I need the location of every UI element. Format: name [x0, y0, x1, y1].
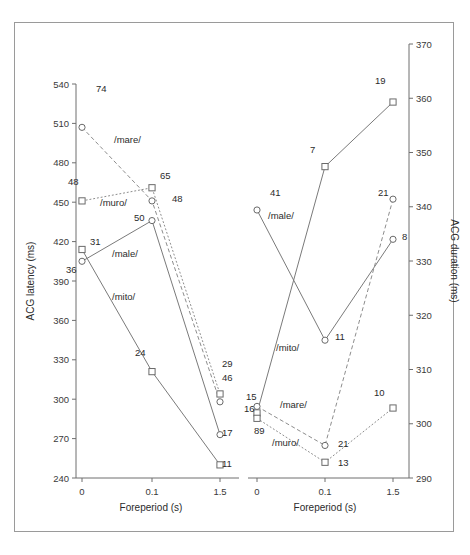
left-marker-square — [149, 185, 155, 191]
left-marker-circle — [79, 124, 85, 130]
right-series-label: /mare/ — [280, 399, 307, 410]
right-marker-square — [254, 415, 260, 421]
left-marker-circle — [79, 258, 85, 264]
left-point-label: 50 — [134, 212, 145, 223]
left-series-line-mare — [82, 127, 220, 401]
right-marker-circle — [254, 207, 260, 213]
right-x-tick-label: 0.1 — [318, 486, 331, 497]
left-point-label: 11 — [222, 458, 232, 469]
left-point-label: 48 — [68, 176, 79, 187]
right-y-tick-label: 330 — [416, 256, 432, 267]
left-marker-circle — [217, 399, 223, 405]
left-point-label: 65 — [160, 170, 171, 181]
left-point-label: 29 — [222, 358, 233, 369]
right-marker-square — [322, 164, 328, 170]
right-point-label: 8 — [402, 231, 407, 242]
left-series-label: /mare/ — [114, 134, 141, 145]
right-marker-square — [322, 459, 328, 465]
left-y-tick-label: 420 — [53, 236, 69, 247]
left-y-tick-label: 540 — [53, 79, 69, 90]
left-y-tick-label: 300 — [53, 394, 69, 405]
right-point-label: 11 — [335, 331, 345, 342]
left-point-label: 46 — [222, 372, 233, 383]
right-x-tick-label: 1.5 — [386, 486, 399, 497]
right-series-label: /mito/ — [276, 342, 300, 353]
right-point-label: 89 — [254, 425, 265, 436]
left-y-tick-label: 390 — [53, 276, 69, 287]
left-y-tick-label: 240 — [53, 473, 69, 484]
left-point-label: 36 — [66, 264, 77, 275]
right-marker-circle — [322, 442, 328, 448]
left-y-tick-label: 510 — [53, 118, 69, 129]
figure-root: 540510480450420390360330300270240ACG lat… — [0, 0, 470, 555]
left-series-line-mito — [82, 249, 220, 464]
left-point-label: 48 — [172, 193, 183, 204]
right-y-tick-label: 290 — [416, 473, 432, 484]
right-point-label: 21 — [378, 187, 389, 198]
right-y-axis-title: ACG duration (ms) — [449, 219, 460, 302]
right-point-label: 13 — [338, 457, 349, 468]
left-marker-square — [217, 391, 223, 397]
right-point-label: 10 — [374, 387, 385, 398]
left-y-tick-label: 360 — [53, 315, 69, 326]
right-marker-circle — [322, 337, 328, 343]
right-y-tick-label: 350 — [416, 147, 432, 158]
left-x-tick-label: 1.5 — [213, 486, 226, 497]
right-point-label: 15 — [246, 391, 257, 402]
left-point-label: 74 — [96, 83, 107, 94]
left-point-label: 24 — [135, 347, 146, 358]
left-marker-square — [149, 369, 155, 375]
right-marker-circle — [254, 403, 260, 409]
left-y-tick-label: 450 — [53, 197, 69, 208]
left-series-label: /male/ — [112, 248, 138, 259]
left-point-label: 17 — [222, 427, 233, 438]
right-series-line-male — [257, 210, 393, 340]
left-y-tick-label: 480 — [53, 157, 69, 168]
right-y-tick-label: 360 — [416, 93, 432, 104]
right-series-label: /muro/ — [272, 437, 299, 448]
left-series-label: /mito/ — [112, 291, 136, 302]
left-y-tick-label: 330 — [53, 354, 69, 365]
left-x-axis-title: Foreperiod (s) — [120, 502, 183, 513]
right-point-label: 19 — [375, 75, 386, 86]
right-series-line-mito — [257, 102, 393, 413]
right-y-tick-label: 370 — [416, 39, 432, 50]
right-x-axis-title: Foreperiod (s) — [294, 502, 357, 513]
right-y-tick-label: 320 — [416, 310, 432, 321]
right-marker-circle — [390, 196, 396, 202]
left-y-tick-label: 270 — [53, 433, 69, 444]
right-y-tick-label: 310 — [416, 364, 432, 375]
right-point-label: 21 — [338, 438, 349, 449]
left-x-tick-label: 0 — [79, 486, 84, 497]
left-marker-square — [79, 198, 85, 204]
chart-canvas: 540510480450420390360330300270240ACG lat… — [0, 0, 470, 555]
left-series-label: /muro/ — [100, 197, 127, 208]
right-series-label: /male/ — [268, 210, 294, 221]
right-marker-square — [390, 405, 396, 411]
left-point-label: 31 — [90, 236, 101, 247]
left-x-tick-label: 0.1 — [145, 486, 158, 497]
left-marker-circle — [149, 198, 155, 204]
left-marker-square — [79, 246, 85, 252]
right-point-label: 41 — [270, 187, 281, 198]
right-marker-circle — [390, 236, 396, 242]
right-point-label: 16 — [244, 403, 255, 414]
right-y-tick-label: 340 — [416, 201, 432, 212]
left-marker-circle — [149, 217, 155, 223]
right-marker-square — [390, 99, 396, 105]
right-point-label: 7 — [310, 144, 315, 155]
right-series-line-mare — [257, 199, 393, 445]
right-series-line-muro — [257, 408, 393, 462]
left-y-axis-title: ACG latency (ms) — [25, 242, 36, 321]
right-y-tick-label: 300 — [416, 418, 432, 429]
right-x-tick-label: 0 — [254, 486, 259, 497]
left-series-line-male — [82, 221, 220, 435]
